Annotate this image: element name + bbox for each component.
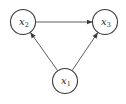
edges	[31, 22, 98, 71]
edge-x1-to-x2	[31, 33, 58, 71]
node-x1: x1	[53, 69, 78, 94]
node-x3: x3	[93, 10, 118, 35]
edge-x1-to-x3	[72, 33, 98, 71]
node-x2: x2	[11, 10, 36, 35]
directed-graph: x1x2x3	[0, 0, 126, 104]
